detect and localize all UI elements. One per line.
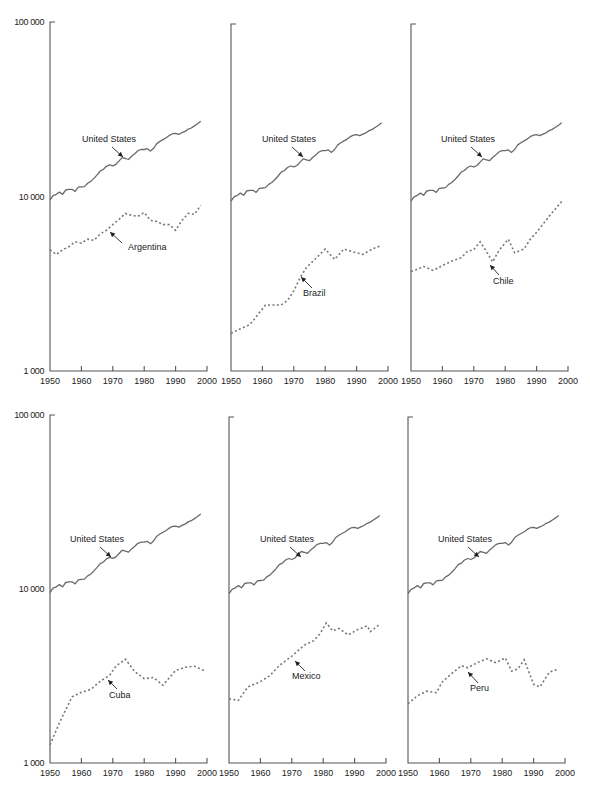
series-united-states bbox=[408, 515, 559, 593]
x-tick-label: 2000 bbox=[555, 768, 575, 778]
x-tick-label: 1990 bbox=[527, 376, 547, 386]
series-peru bbox=[408, 658, 559, 704]
axis-frame bbox=[411, 24, 568, 371]
label-peru: Peru bbox=[470, 683, 489, 693]
x-tick-label: 1990 bbox=[345, 768, 365, 778]
series-cuba bbox=[50, 659, 204, 745]
y-tick-label: 100 000 bbox=[14, 410, 44, 420]
x-tick-label: 1960 bbox=[252, 376, 272, 386]
y-tick-label: 10 000 bbox=[19, 192, 45, 202]
axis-frame bbox=[229, 417, 386, 763]
label-mexico: Mexico bbox=[292, 671, 321, 681]
x-tick-label: 1990 bbox=[166, 768, 186, 778]
x-tick-label: 1980 bbox=[313, 768, 333, 778]
label-united-states: United States bbox=[262, 134, 317, 144]
axis-frame bbox=[50, 22, 207, 371]
x-tick-label: 1980 bbox=[315, 376, 335, 386]
label-united-states: United States bbox=[441, 134, 496, 144]
label-argentina: Argentina bbox=[128, 242, 167, 252]
label-united-states: United States bbox=[438, 534, 493, 544]
x-tick-label: 1980 bbox=[134, 376, 154, 386]
x-tick-label: 1960 bbox=[250, 768, 270, 778]
y-tick-label: 1 000 bbox=[23, 758, 44, 768]
x-tick-label: 1990 bbox=[524, 768, 544, 778]
x-tick-label: 1990 bbox=[347, 376, 367, 386]
x-tick-label: 2000 bbox=[376, 768, 396, 778]
chart-panel-top-right: 195019601970198019902000United StatesChi… bbox=[401, 24, 578, 386]
label-united-states: United States bbox=[82, 134, 137, 144]
y-tick-label: 1 000 bbox=[23, 366, 44, 376]
y-tick-label: 100 000 bbox=[14, 17, 44, 27]
axis-frame bbox=[50, 415, 207, 763]
y-tick-label: 10 000 bbox=[19, 584, 45, 594]
series-argentina bbox=[50, 205, 201, 254]
x-tick-label: 1960 bbox=[432, 376, 452, 386]
x-tick-label: 1980 bbox=[492, 768, 512, 778]
x-tick-label: 1950 bbox=[398, 768, 418, 778]
x-tick-label: 1990 bbox=[166, 376, 186, 386]
x-tick-label: 1970 bbox=[461, 768, 481, 778]
x-tick-label: 2000 bbox=[197, 376, 217, 386]
x-tick-label: 1980 bbox=[495, 376, 515, 386]
label-united-states: United States bbox=[260, 534, 315, 544]
chart-panel-bottom-middle: 195019601970198019902000United StatesMex… bbox=[219, 417, 396, 778]
x-tick-label: 1950 bbox=[221, 376, 241, 386]
chart-panel-bottom-right: 195019601970198019902000United StatesPer… bbox=[398, 417, 575, 778]
chart-panel-top-left: 195019601970198019902000100 00010 0001 0… bbox=[14, 17, 217, 386]
x-tick-label: 1970 bbox=[282, 768, 302, 778]
x-tick-label: 2000 bbox=[558, 376, 578, 386]
series-mexico bbox=[229, 623, 380, 701]
x-tick-label: 1950 bbox=[401, 376, 421, 386]
x-tick-label: 2000 bbox=[378, 376, 398, 386]
chart-panel-bottom-left: 195019601970198019902000100 00010 0001 0… bbox=[14, 410, 217, 778]
x-tick-label: 1970 bbox=[103, 376, 123, 386]
label-united-states: United States bbox=[70, 534, 125, 544]
x-tick-label: 1960 bbox=[429, 768, 449, 778]
series-chile bbox=[411, 201, 562, 271]
x-tick-label: 1960 bbox=[71, 376, 91, 386]
x-tick-label: 1970 bbox=[464, 376, 484, 386]
x-tick-label: 1970 bbox=[284, 376, 304, 386]
axis-frame bbox=[408, 417, 565, 763]
x-tick-label: 1970 bbox=[103, 768, 123, 778]
chart-panels: 195019601970198019902000100 00010 0001 0… bbox=[14, 17, 578, 778]
x-tick-label: 1950 bbox=[219, 768, 239, 778]
small-multiples-chart: 195019601970198019902000100 00010 0001 0… bbox=[0, 0, 590, 805]
x-tick-label: 1950 bbox=[40, 376, 60, 386]
x-tick-label: 2000 bbox=[197, 768, 217, 778]
label-brazil: Brazil bbox=[303, 288, 326, 298]
chart-panel-top-middle: 195019601970198019902000United StatesBra… bbox=[221, 24, 398, 386]
x-tick-label: 1980 bbox=[134, 768, 154, 778]
label-chile: Chile bbox=[493, 276, 514, 286]
x-tick-label: 1950 bbox=[40, 768, 60, 778]
series-united-states bbox=[229, 515, 380, 593]
x-tick-label: 1960 bbox=[71, 768, 91, 778]
label-cuba: Cuba bbox=[109, 690, 131, 700]
series-united-states bbox=[50, 514, 201, 593]
